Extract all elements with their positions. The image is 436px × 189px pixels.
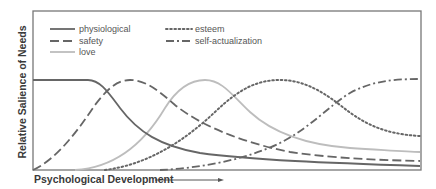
svg-text:safety: safety [79,36,104,46]
curve-esteem [105,80,420,170]
x-axis-label: Psychological Development [34,173,173,185]
svg-text:love: love [79,47,96,57]
legend-item-esteem: esteem [166,24,225,34]
curve-physiological [33,80,420,166]
legend-item-physiological: physiological [50,24,131,34]
curve-love [75,80,420,170]
legend-item-safety: safety [50,36,104,46]
legend: physiological safety love esteem self-ac… [50,24,262,57]
svg-text:self-actualization: self-actualization [195,36,262,46]
curve-self-actualization [160,79,420,170]
legend-item-self-actualization: self-actualization [166,36,262,46]
y-axis-label: Relative Salience of Needs [16,25,28,158]
salience-chart: physiological safety love esteem self-ac… [0,0,436,189]
svg-text:physiological: physiological [79,24,131,34]
svg-text:esteem: esteem [195,24,225,34]
legend-item-love: love [50,47,96,57]
